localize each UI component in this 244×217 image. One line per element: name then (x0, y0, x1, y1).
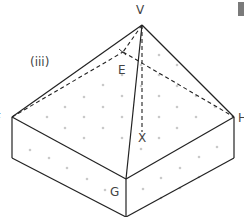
point-label-x: X (138, 131, 146, 145)
vertex-label-v: V (136, 3, 145, 17)
vertex-label-e: E (118, 63, 126, 77)
hidden-edges (12, 25, 234, 132)
vertex-label-f: F (0, 111, 1, 125)
visible-edges (12, 25, 234, 217)
pyramid-on-cuboid-diagram: V E G X F H (iii) (0, 0, 244, 217)
part-label: (iii) (30, 55, 49, 69)
vertex-label-h: H (238, 111, 244, 125)
vertex-label-g: G (110, 185, 119, 199)
